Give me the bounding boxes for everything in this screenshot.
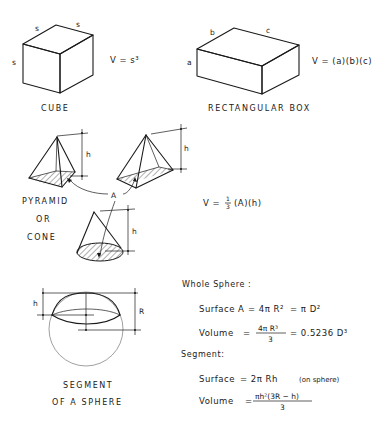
svg-text:= 4π R²: = 4π R² [248,304,284,314]
svg-text:(A)(h): (A)(h) [234,198,261,208]
cone-caption: CONE [27,233,56,242]
cube-volume-formula: V = s³ [110,55,139,65]
svg-text:3: 3 [268,335,273,344]
cube-figure [23,25,93,93]
box-volume-formula: V = (a)(b)(c) [312,56,372,66]
svg-text:(on sphere): (on sphere) [299,376,340,384]
segment-surface-formula: Surface = 2π Rh (on sphere) [199,374,340,384]
cone-height-label: h [132,227,137,236]
cone-figure [77,205,135,261]
cube-edge-label: s [35,24,39,33]
box-edge-label: b [210,28,215,37]
svg-text:4π R³: 4π R³ [258,324,278,333]
segment-caption: SEGMENT [63,381,113,390]
svg-text:=: = [245,396,253,406]
segment-heading: Segment: [181,350,225,359]
segment-height-label: h [33,299,38,308]
cube-edge-label: s [76,20,80,29]
or-caption: OR [36,215,51,224]
segment-volume-formula: Volume = πh²(3R − h) 3 [199,392,312,412]
pyramid-height-label: h [86,150,91,159]
whole-sphere-heading: Whole Sphere : [182,280,251,289]
svg-text:Surface: Surface [199,374,235,384]
svg-text:πh²(3R − h): πh²(3R − h) [255,392,299,401]
svg-text:1: 1 [226,195,230,202]
base-area-label: A [111,191,117,200]
pyramid-height-label: h [184,144,189,153]
svg-text:=: = [243,328,251,338]
svg-text:Surface A: Surface A [199,304,244,314]
sphere-segment-figure [37,288,141,366]
cube-edge-label: s [12,58,16,67]
box-edge-label: a [187,58,192,67]
whole-sphere-surface-formula: Surface A = 4π R² = π D² [199,304,321,314]
box-caption: RECTANGULAR BOX [208,104,311,113]
svg-text:Volume: Volume [199,396,234,406]
svg-text:V =: V = [203,198,220,208]
svg-text:= 0.5236 D³: = 0.5236 D³ [290,328,348,338]
sphere-radius-label: R [139,307,144,316]
cube-caption: CUBE [41,104,69,113]
svg-text:= π D²: = π D² [290,304,321,314]
sphere-caption: OF A SPHERE [52,398,123,407]
geometry-formulas-diagram: s s s V = s³ CUBE b c a V = (a)(b)(c) RE… [0,0,391,425]
whole-sphere-volume-formula: Volume = 4π R³ 3 = 0.5236 D³ [199,324,348,344]
svg-text:3: 3 [280,403,285,412]
pyramid-caption: PYRAMID [22,197,69,206]
svg-text:= 2π Rh: = 2π Rh [240,374,278,384]
rectangular-box-figure [197,28,299,94]
svg-text:Volume: Volume [199,328,234,338]
pyramid-volume-formula: V = 1 3 (A)(h) [203,195,261,210]
svg-text:3: 3 [226,203,230,210]
pyramid-figure-right [117,124,187,188]
box-edge-label: c [266,26,270,35]
pyramid-figure-left [29,129,88,187]
